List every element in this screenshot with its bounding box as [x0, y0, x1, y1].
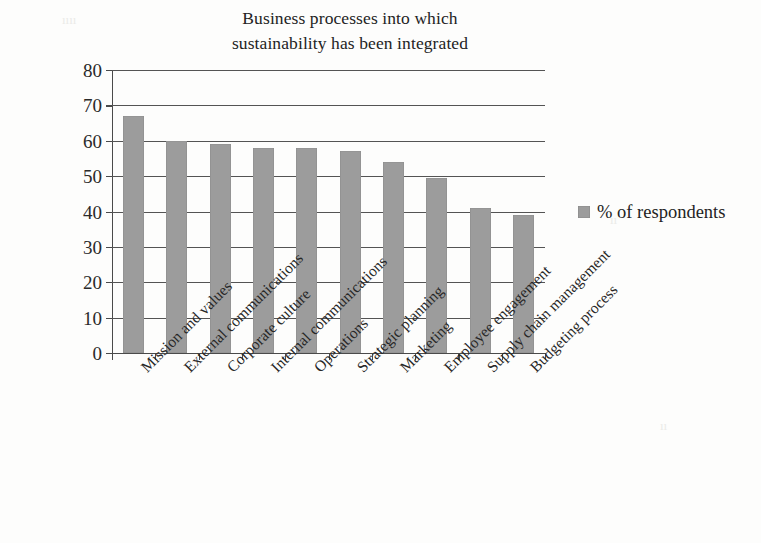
y-axis-tick-label: 50 [83, 167, 102, 186]
chart-legend: % of respondents [578, 203, 725, 222]
y-axis-tick-label: 20 [83, 273, 102, 292]
scan-artifact: ıı [660, 418, 667, 434]
y-axis-tick-label: 10 [83, 308, 102, 327]
y-axis-tick-label: 0 [93, 344, 103, 363]
y-axis-tick-mark [106, 70, 112, 71]
scan-artifact: ıııı [62, 12, 76, 28]
chart-title: Business processes into which sustainabi… [150, 6, 550, 56]
gridline [112, 105, 545, 106]
y-axis-tick-mark [106, 318, 112, 319]
y-axis-tick-mark [106, 105, 112, 106]
chart-title-line-2: sustainability has been integrated [150, 31, 550, 56]
y-axis-tick-label: 30 [83, 237, 102, 256]
y-axis-tick-mark [106, 141, 112, 142]
y-axis-tick-mark [106, 282, 112, 283]
x-axis-tick-mark [112, 353, 113, 360]
y-axis-tick-label: 80 [83, 61, 102, 80]
gridline [112, 70, 545, 71]
y-axis-tick-label: 70 [83, 96, 102, 115]
legend-swatch-icon [578, 206, 590, 218]
chart-title-line-1: Business processes into which [150, 6, 550, 31]
y-axis-tick-mark [106, 247, 112, 248]
legend-label: % of respondents [597, 203, 725, 222]
bar-chart-figure: Business processes into which sustainabi… [0, 0, 761, 543]
y-axis-tick-label: 60 [83, 131, 102, 150]
bar [123, 116, 144, 353]
y-axis-tick-label: 40 [83, 202, 102, 221]
y-axis-tick-mark [106, 212, 112, 213]
y-axis-tick-mark [106, 176, 112, 177]
